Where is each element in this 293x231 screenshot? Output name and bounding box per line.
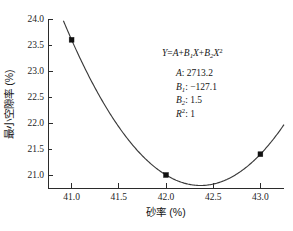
chart-canvas: 24.0 23.5 23.0 22.5 22.0 21.5 21.0 41.0 … <box>0 0 293 231</box>
x-tick-label: 41.0 <box>63 192 80 202</box>
param-row-B2: B2: 1.5 <box>176 95 202 106</box>
y-tick-label: 22.5 <box>27 92 44 102</box>
data-point <box>69 37 74 42</box>
y-tick-label: 24.0 <box>27 14 44 24</box>
param-row-A: A: 2713.2 <box>175 68 213 78</box>
x-tick-label: 41.5 <box>110 192 127 202</box>
formula-line: Y=A+B1X+B2X2 <box>162 47 223 59</box>
y-tick-label: 23.0 <box>27 66 44 76</box>
data-point <box>164 173 169 178</box>
y-tick-label: 21.5 <box>27 144 44 154</box>
data-point <box>258 152 263 157</box>
param-row-R2: R2: 1 <box>175 107 195 118</box>
x-axis-title: 砂率 (%) <box>146 206 185 218</box>
y-tick-label: 21.0 <box>27 170 44 180</box>
x-tick-label: 43.0 <box>252 192 269 202</box>
y-tick-label: 23.5 <box>27 40 44 50</box>
chart-figure: 24.0 23.5 23.0 22.5 22.0 21.5 21.0 41.0 … <box>0 0 293 231</box>
figure-background <box>0 0 293 231</box>
x-tick-label: 42.0 <box>158 192 175 202</box>
x-tick-label: 42.5 <box>205 192 222 202</box>
y-axis-title: 最小空隙率 (%) <box>3 69 15 138</box>
y-tick-label: 22.0 <box>27 118 44 128</box>
